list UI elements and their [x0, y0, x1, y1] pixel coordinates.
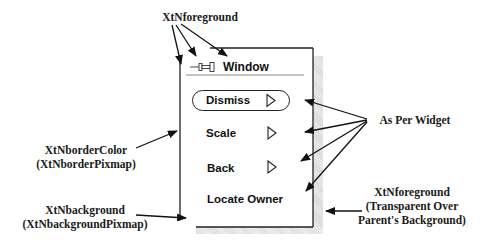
menu-item-scale: Scale — [206, 126, 236, 140]
window-title: Window — [223, 60, 269, 74]
menu-item-back: Back — [207, 161, 235, 175]
pushpin-icon — [190, 63, 214, 72]
label-as-per-widget: As Per Widget — [370, 113, 460, 127]
label-shadow-foreground-line2: (Transparent Over — [352, 199, 472, 213]
label-background-line2: (XtNbackgroundPixmap) — [20, 217, 150, 231]
label-top-foreground: XtNforeground — [140, 10, 260, 24]
diagram-canvas: Window Dismiss Scale Back Locate Owner X… — [0, 0, 484, 243]
menu-item-locate-owner: Locate Owner — [207, 192, 283, 206]
menu-item-dismiss: Dismiss — [206, 93, 250, 107]
label-border-color-line1: XtNborderColor — [36, 143, 136, 157]
label-shadow-foreground: XtNforeground (Transparent Over Parent's… — [352, 185, 472, 227]
label-background-line1: XtNbackground — [20, 203, 150, 217]
label-border-color-line2: (XtNborderPixmap) — [36, 157, 136, 171]
label-shadow-foreground-line1: XtNforeground — [352, 185, 472, 199]
label-border-color: XtNborderColor (XtNborderPixmap) — [36, 143, 136, 171]
label-background: XtNbackground (XtNbackgroundPixmap) — [20, 203, 150, 231]
label-shadow-foreground-line3: Parent's Background) — [352, 213, 472, 227]
